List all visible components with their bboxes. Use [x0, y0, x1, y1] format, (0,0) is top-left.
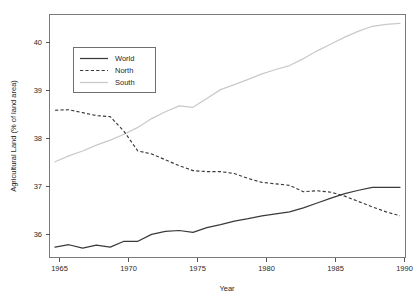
chart-container: 36 37 38 39 40 1965	[0, 0, 419, 306]
y-tick-label: 37	[34, 182, 42, 191]
legend: World North South	[74, 48, 156, 93]
line-chart: 36 37 38 39 40 1965	[0, 0, 419, 306]
x-tick-group-3: 1980	[258, 258, 275, 274]
y-axis: 36 37 38 39 40	[34, 38, 50, 239]
y-tick-group-1: 37	[34, 182, 50, 191]
y-tick-group-2: 38	[34, 134, 50, 143]
y-tick-label: 39	[34, 86, 42, 95]
y-tick-label: 40	[34, 38, 42, 47]
x-tick-label: 1965	[51, 264, 68, 273]
y-tick-group-0: 36	[34, 230, 50, 239]
x-tick-label: 1980	[258, 264, 275, 273]
y-tick-label: 36	[34, 230, 42, 239]
y-tick-group-4: 40	[34, 38, 50, 47]
y-tick-label: 38	[34, 134, 42, 143]
legend-label-north: North	[115, 66, 133, 75]
x-axis-title: Year	[219, 284, 235, 293]
y-tick-group-3: 39	[34, 86, 50, 95]
x-tick-label: 1970	[120, 264, 137, 273]
x-tick-group-5: 1990	[396, 258, 413, 274]
series-line-world	[55, 187, 400, 248]
legend-label-south: South	[115, 78, 135, 87]
x-tick-label: 1985	[327, 264, 344, 273]
x-axis: 1965 1970 1975 1980 1985 1990	[51, 258, 413, 274]
legend-label-world: World	[115, 54, 134, 63]
x-tick-group-1: 1970	[120, 258, 137, 274]
x-tick-group-0: 1965	[51, 258, 68, 274]
y-axis-title: Agricultural Land (% of land area)	[9, 80, 18, 192]
x-tick-label: 1975	[189, 264, 206, 273]
x-tick-group-4: 1985	[327, 258, 344, 274]
x-tick-group-2: 1975	[189, 258, 206, 274]
series-line-north	[55, 110, 400, 216]
x-tick-label: 1990	[396, 264, 413, 273]
